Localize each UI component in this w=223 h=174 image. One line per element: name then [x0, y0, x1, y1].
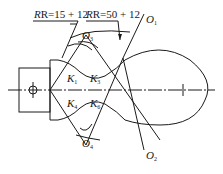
point-label-k4: K4 — [67, 98, 77, 109]
ellipse-outline — [125, 50, 208, 125]
dimension-label-r1: RR=15 + 12 — [34, 9, 88, 20]
dimension-text: R=50 + 12 — [93, 8, 140, 20]
point-label-o3: O3 — [82, 30, 93, 41]
point-label-k3: K3 — [90, 73, 100, 84]
point-label-k1: K1 — [67, 73, 77, 84]
drawing-canvas — [0, 0, 223, 174]
dimension-label-r2: RR=50 + 12 — [86, 9, 140, 20]
point-label-o1: O1 — [146, 14, 157, 25]
dimension-text: R=15 + 12 — [41, 8, 88, 20]
point-label-o2: O2 — [146, 150, 157, 161]
point-label-o4: O4 — [82, 138, 93, 149]
point-label-k6: K6 — [90, 98, 100, 109]
